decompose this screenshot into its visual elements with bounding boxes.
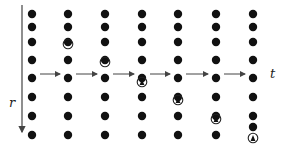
particle-dot: [174, 74, 182, 82]
particle-dot: [138, 23, 146, 31]
particle-dot: [249, 93, 257, 101]
particle-dot: [28, 93, 36, 101]
up-triangle-icon: [251, 135, 256, 141]
particle-dot: [249, 23, 257, 31]
particle-dot: [28, 56, 36, 64]
particle-dot: [28, 74, 36, 82]
particle-dot: [64, 56, 72, 64]
t-axis-label: t: [270, 66, 275, 81]
particle-dot: [28, 10, 36, 18]
particle-dot: [101, 38, 109, 46]
particle-dot: [138, 38, 146, 46]
particle-dot: [28, 23, 36, 31]
particle-dot: [174, 23, 182, 31]
ring-propagation-diagram: [0, 0, 285, 150]
particle-dot: [64, 131, 72, 139]
particle-dot: [101, 93, 109, 101]
particle-dot: [249, 38, 257, 46]
particle-dot: [28, 38, 36, 46]
particle-dot: [212, 74, 220, 82]
particle-dot: [64, 23, 72, 31]
particle-dot: [138, 93, 146, 101]
particle-dot: [212, 131, 220, 139]
particle-dot: [64, 93, 72, 101]
particle-dot: [138, 112, 146, 120]
particle-dot: [138, 56, 146, 64]
particle-dot: [174, 112, 182, 120]
r-axis-label: r: [9, 95, 15, 110]
particle-dot: [212, 10, 220, 18]
particle-dot: [101, 10, 109, 18]
particle-dot: [64, 74, 72, 82]
particle-dot: [28, 131, 36, 139]
particle-dot: [138, 131, 146, 139]
particle-dot: [249, 10, 257, 18]
particle-dot: [174, 56, 182, 64]
particle-dot: [101, 23, 109, 31]
particle-dot: [174, 38, 182, 46]
particle-dot: [249, 74, 257, 82]
particle-dot: [249, 112, 257, 120]
particle-dot: [249, 123, 257, 131]
particle-dot: [174, 131, 182, 139]
particle-dot: [28, 112, 36, 120]
particle-dot: [212, 38, 220, 46]
particle-dot: [64, 10, 72, 18]
particle-dot: [101, 131, 109, 139]
particle-dot: [212, 56, 220, 64]
particle-dot: [212, 93, 220, 101]
particle-dot: [64, 112, 72, 120]
particle-dot: [101, 74, 109, 82]
particle-dot: [249, 56, 257, 64]
particle-dot: [174, 10, 182, 18]
particle-dot: [212, 23, 220, 31]
particle-dot: [138, 10, 146, 18]
particle-dot: [101, 112, 109, 120]
